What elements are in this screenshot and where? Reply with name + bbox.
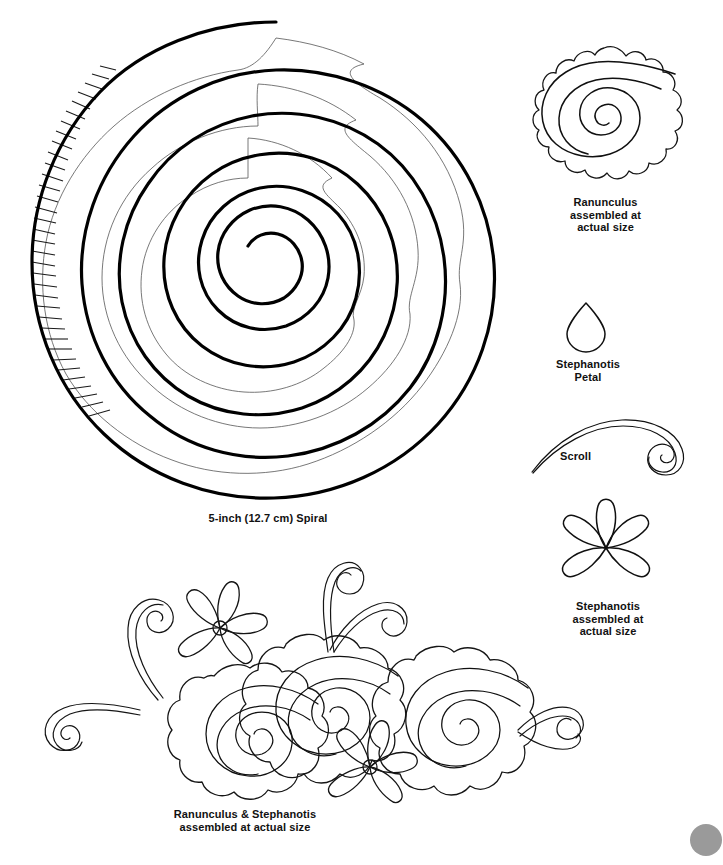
spiral-inner-wave-mid bbox=[102, 84, 418, 428]
spiral-cut-line bbox=[32, 22, 495, 498]
spiral-hatch-marks bbox=[32, 66, 116, 416]
arrangement-svg bbox=[18, 552, 578, 817]
arrangement-scroll-upperleft bbox=[128, 599, 173, 700]
stephanotis-petal-svg bbox=[560, 300, 612, 355]
petal-upper-right bbox=[606, 515, 648, 548]
scroll-caption: Scroll bbox=[560, 450, 615, 463]
ranunculus-caption: Ranunculus assembled at actual size bbox=[528, 196, 683, 234]
arrangement-figure bbox=[18, 552, 578, 817]
scroll-figure bbox=[530, 415, 695, 477]
arrangement-stephanotis-upper bbox=[179, 582, 268, 664]
corner-dot-svg bbox=[689, 823, 723, 857]
spiral-svg bbox=[8, 8, 518, 508]
petal-top bbox=[596, 499, 615, 548]
ranunculus-roll-spiral bbox=[542, 62, 675, 157]
arrangement-scroll-left bbox=[45, 704, 140, 751]
spiral-inner-wave-inner bbox=[141, 138, 364, 392]
petal-lower-right bbox=[606, 548, 649, 577]
spiral-caption: 5-inch (12.7 cm) Spiral bbox=[128, 512, 408, 525]
page-corner-dot bbox=[689, 823, 723, 857]
ranunculus-figure bbox=[518, 42, 690, 187]
ranunculus-outer-edge bbox=[533, 47, 682, 179]
arrangement-caption: Ranunculus & Stephanotis assembled at ac… bbox=[85, 808, 405, 833]
corner-dot-circle bbox=[690, 824, 722, 856]
ranunculus-roll-spiral-2 bbox=[559, 78, 661, 154]
scroll-svg bbox=[530, 415, 695, 477]
stephanotis-petal-figure bbox=[560, 300, 612, 355]
spiral-template-figure bbox=[8, 8, 518, 508]
arrangement-scroll-top bbox=[323, 563, 407, 652]
scroll-outline bbox=[532, 420, 684, 475]
arrangement-rose-left bbox=[168, 663, 329, 799]
ranunculus-svg bbox=[518, 42, 690, 187]
arrangement-stephanotis-lower bbox=[329, 721, 418, 803]
petal-outline bbox=[567, 303, 605, 352]
stephanotis-petal-caption: Stephanotis Petal bbox=[533, 358, 643, 383]
petal-upper-left bbox=[564, 515, 606, 548]
